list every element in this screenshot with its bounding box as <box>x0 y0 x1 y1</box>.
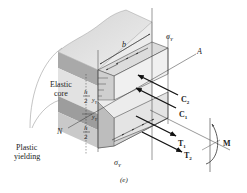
svg-text:2: 2 <box>84 97 88 105</box>
label-core: core <box>54 89 68 98</box>
label-N: N <box>56 127 63 136</box>
moment-symbol <box>202 118 220 172</box>
plastic-bending-diagram: Elastic core Plastic yielding N A b σY σ… <box>0 0 247 193</box>
label-b: b <box>122 40 126 49</box>
label-T1: T1 <box>178 139 186 149</box>
label-sigma-top: σY <box>166 32 174 42</box>
label-sigma-bottom: σY <box>114 158 122 168</box>
force-T2-arrow <box>142 132 182 152</box>
label-M: M <box>223 139 231 148</box>
figure-caption: (e) <box>120 176 128 184</box>
svg-text:h: h <box>84 124 88 132</box>
svg-text:h: h <box>84 88 88 96</box>
label-yielding: yielding <box>14 152 40 161</box>
label-plastic: Plastic <box>16 143 38 152</box>
plastic-leader-lower <box>32 100 60 128</box>
label-A: A <box>196 47 202 56</box>
label-C1: C1 <box>179 110 188 120</box>
label-T2: T2 <box>184 151 192 161</box>
label-C2: C2 <box>181 95 190 105</box>
label-elastic: Elastic <box>50 80 72 89</box>
svg-text:2: 2 <box>84 133 88 141</box>
